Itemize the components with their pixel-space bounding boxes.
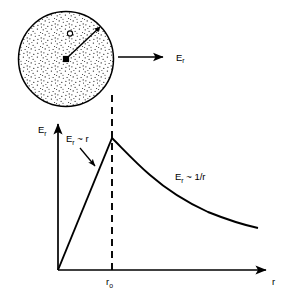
annotation-inside-label: Er ~ r: [66, 133, 89, 146]
y-axis-label: Er: [38, 124, 47, 137]
radius-label-marker-icon: [67, 31, 72, 36]
charged-region: [19, 12, 114, 107]
annotation-inside: Er ~ r: [66, 133, 95, 166]
physics-figure: Er Er r ro: [0, 0, 287, 295]
r-zero-reference: ro: [106, 95, 113, 289]
chart-axes: Er r: [38, 124, 275, 287]
field-arrow-label: Er: [176, 52, 185, 65]
series-inside-linear: [58, 138, 112, 270]
series-outside-inverse: [112, 138, 258, 228]
figure-canvas: Er Er r ro: [0, 0, 287, 295]
annotation-outside-label: Er ~ 1/r: [175, 171, 206, 184]
x-axis-label: r: [272, 276, 275, 287]
x-tick-label-r-zero: ro: [106, 276, 113, 289]
annotation-outside: Er ~ 1/r: [175, 171, 206, 184]
annotation-inside-pointer-icon: [80, 148, 95, 166]
field-arrow-group: Er: [118, 52, 185, 65]
